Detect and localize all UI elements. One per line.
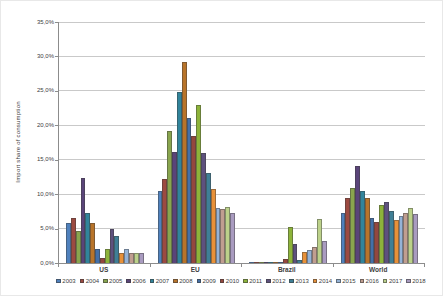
legend-item-2013: 2013 xyxy=(289,278,308,284)
legend-item-2006: 2006 xyxy=(126,278,145,284)
legend-swatch-2003 xyxy=(56,279,61,284)
legend-swatch-2011 xyxy=(243,279,248,284)
legend-label: 2003 xyxy=(62,278,75,284)
legend-item-2011: 2011 xyxy=(243,278,262,284)
x-category-label-eu: EU xyxy=(150,266,242,273)
x-category-label-us: US xyxy=(58,266,150,273)
y-tick-mark xyxy=(55,91,58,92)
bar-us-2018 xyxy=(139,253,144,263)
bar-groups xyxy=(59,22,425,263)
y-tick-mark xyxy=(55,229,58,230)
y-tick-label: 30,0% xyxy=(24,53,54,59)
legend-item-2004: 2004 xyxy=(80,278,99,284)
legend-swatch-2012 xyxy=(266,279,271,284)
legend-item-2010: 2010 xyxy=(220,278,239,284)
y-tick-label: 0,0% xyxy=(24,260,54,266)
legend-label: 2006 xyxy=(132,278,145,284)
legend-item-2008: 2008 xyxy=(173,278,192,284)
legend-label: 2007 xyxy=(156,278,169,284)
legend-swatch-2014 xyxy=(313,279,318,284)
x-tick-mark xyxy=(424,264,425,267)
bar-group-us xyxy=(59,22,151,263)
legend-label: 2013 xyxy=(295,278,308,284)
legend-item-2016: 2016 xyxy=(360,278,379,284)
legend-swatch-2008 xyxy=(173,279,178,284)
legend-label: 2004 xyxy=(86,278,99,284)
y-tick-mark xyxy=(55,22,58,23)
y-tick-label: 10,0% xyxy=(24,191,54,197)
x-axis-category-labels: USEUBrazilWorld xyxy=(58,266,424,273)
x-category-label-brazil: Brazil xyxy=(241,266,333,273)
y-tick-label: 25,0% xyxy=(24,87,54,93)
x-category-label-world: World xyxy=(333,266,425,273)
legend-item-2007: 2007 xyxy=(150,278,169,284)
legend-item-2012: 2012 xyxy=(266,278,285,284)
legend-swatch-2017 xyxy=(383,279,388,284)
bar-group-world xyxy=(334,22,426,263)
x-tick-mark xyxy=(241,264,242,267)
legend-label: 2018 xyxy=(412,278,425,284)
legend-swatch-2018 xyxy=(406,279,411,284)
legend-label: 2008 xyxy=(179,278,192,284)
y-tick-mark xyxy=(55,194,58,195)
y-tick-label: 35,0% xyxy=(24,19,54,25)
legend-label: 2009 xyxy=(203,278,216,284)
import-share-bar-chart: Import share of consumption USEUBrazilWo… xyxy=(0,0,443,296)
legend-item-2017: 2017 xyxy=(383,278,402,284)
bar-group-eu xyxy=(151,22,243,263)
x-tick-mark xyxy=(150,264,151,267)
legend-item-2018: 2018 xyxy=(406,278,425,284)
legend-swatch-2016 xyxy=(360,279,365,284)
y-axis-title: Import share of consumption xyxy=(15,101,21,182)
legend-swatch-2007 xyxy=(150,279,155,284)
bar-eu-2018 xyxy=(230,213,235,263)
bar-world-2018 xyxy=(413,214,418,263)
plot-area xyxy=(58,22,425,264)
x-tick-mark xyxy=(58,264,59,267)
legend-label: 2017 xyxy=(389,278,402,284)
legend-swatch-2006 xyxy=(126,279,131,284)
legend-item-2015: 2015 xyxy=(336,278,355,284)
legend-label: 2012 xyxy=(272,278,285,284)
y-tick-label: 5,0% xyxy=(24,225,54,231)
legend-swatch-2015 xyxy=(336,279,341,284)
y-tick-mark xyxy=(55,160,58,161)
bar-brazil-2018 xyxy=(322,241,327,263)
legend-label: 2010 xyxy=(226,278,239,284)
y-tick-mark xyxy=(55,125,58,126)
legend-item-2003: 2003 xyxy=(56,278,75,284)
legend-label: 2014 xyxy=(319,278,332,284)
bar-group-brazil xyxy=(242,22,334,263)
legend-swatch-2013 xyxy=(289,279,294,284)
y-tick-mark xyxy=(55,56,58,57)
legend-swatch-2004 xyxy=(80,279,85,284)
legend-item-2014: 2014 xyxy=(313,278,332,284)
legend-label: 2016 xyxy=(366,278,379,284)
y-tick-label: 15,0% xyxy=(24,156,54,162)
legend-label: 2015 xyxy=(342,278,355,284)
y-tick-label: 20,0% xyxy=(24,122,54,128)
legend-swatch-2005 xyxy=(103,279,108,284)
legend-swatch-2010 xyxy=(220,279,225,284)
x-tick-mark xyxy=(333,264,334,267)
legend-item-2009: 2009 xyxy=(197,278,216,284)
legend-label: 2011 xyxy=(249,278,262,284)
legend-item-2005: 2005 xyxy=(103,278,122,284)
legend-label: 2005 xyxy=(109,278,122,284)
legend-swatch-2009 xyxy=(197,279,202,284)
legend: 2003200420052006200720082009201020112012… xyxy=(51,278,431,284)
